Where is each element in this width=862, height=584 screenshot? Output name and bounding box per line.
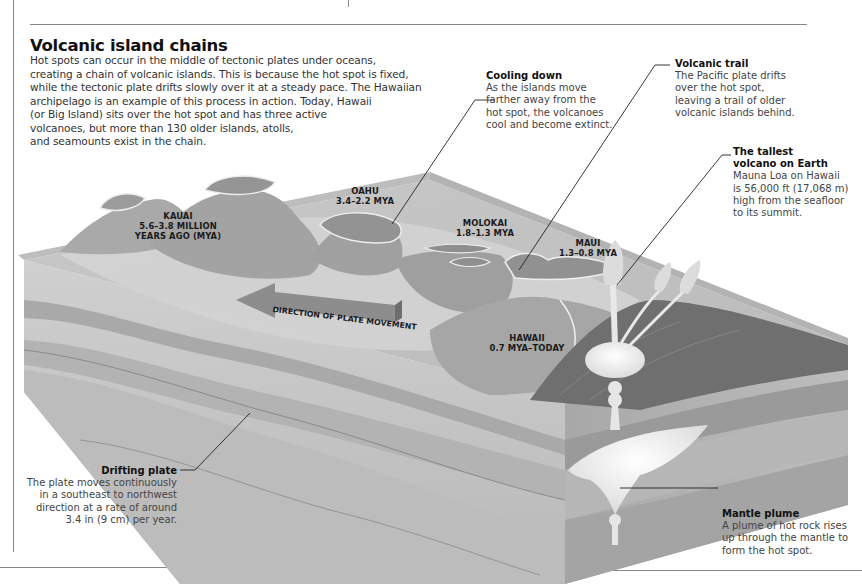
callout-heading: volcano on Earth bbox=[733, 158, 861, 170]
intro-line: volcanoes, but more than 130 older islan… bbox=[30, 122, 470, 136]
callout-heading: The tallest bbox=[733, 146, 861, 158]
callout-mantle-plume: Mantle plume A plume of hot rock rises u… bbox=[722, 508, 862, 557]
intro-line: (or Big Island) sits over the hot spot a… bbox=[30, 108, 470, 122]
callout-cooling-down: Cooling down As the islands move farther… bbox=[486, 70, 616, 131]
island-label-molokai: MOLOKAI 1.8–1.3 MYA bbox=[445, 218, 525, 238]
callout-heading: Volcanic trail bbox=[675, 58, 805, 70]
callout-drifting-plate: Drifting plate The plate moves continuou… bbox=[15, 465, 177, 526]
callout-heading: Mantle plume bbox=[722, 508, 862, 520]
intro-paragraph: Hot spots can occur in the middle of tec… bbox=[30, 54, 470, 149]
intro-line: Hot spots can occur in the middle of tec… bbox=[30, 54, 470, 68]
intro-line: archipelago is an example of this proces… bbox=[30, 95, 470, 109]
callout-heading: Drifting plate bbox=[15, 465, 177, 477]
island-label-oahu: OAHU 3.4–2.2 MYA bbox=[320, 186, 410, 206]
callout-volcanic-trail: Volcanic trail The Pacific plate drifts … bbox=[675, 58, 805, 119]
island-label-kauai: KAUAI 5.6–3.8 MILLION YEARS AGO (MYA) bbox=[118, 211, 238, 241]
island-label-maui: MAUI 1.3–0.8 MYA bbox=[553, 238, 623, 258]
page-title: Volcanic island chains bbox=[30, 36, 228, 55]
callout-tallest-volcano: The tallest volcano on Earth Mauna Loa o… bbox=[733, 146, 861, 219]
callout-heading: Cooling down bbox=[486, 70, 616, 82]
island-label-hawaii: HAWAII 0.7 MYA–TODAY bbox=[482, 333, 572, 353]
intro-line: and seamounts exist in the chain. bbox=[30, 135, 470, 149]
intro-line: creating a chain of volcanic islands. Th… bbox=[30, 68, 470, 82]
intro-line: while the tectonic plate drifts slowly o… bbox=[30, 81, 470, 95]
